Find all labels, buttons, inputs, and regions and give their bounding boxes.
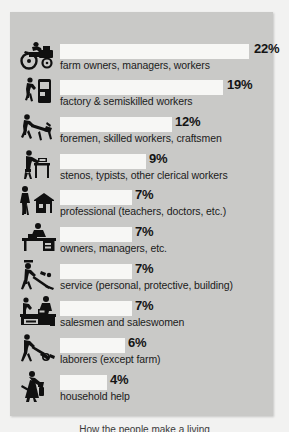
bar-category-label: household help (60, 390, 130, 402)
bar-fill (60, 301, 132, 316)
bar-value-label: 19% (227, 77, 252, 92)
bar-fill (60, 190, 132, 205)
salesman-counter-icon (16, 295, 60, 329)
bar-fill (60, 375, 107, 390)
bar-category-label: stenos, typists, other clerical workers (60, 169, 228, 181)
bar-value-label: 7% (135, 224, 153, 239)
bar-value-label: 22% (254, 41, 279, 56)
bar-fill (60, 154, 146, 169)
bar-value-label: 6% (128, 335, 146, 350)
craftsman-icon (16, 111, 60, 145)
bar-fill (60, 80, 223, 95)
bar-value-label: 12% (175, 114, 200, 129)
bar-value-label: 7% (135, 261, 153, 276)
bar-category-label: professional (teachers, doctors, etc.) (60, 205, 226, 217)
bar-value-label: 7% (135, 298, 153, 313)
bar-category-label: salesmen and saleswomen (60, 316, 184, 328)
bar-fill (60, 227, 132, 242)
figure-caption: How the people make a living (0, 424, 289, 432)
bar-category-label: owners, managers, etc. (60, 242, 167, 254)
household-help-icon (16, 369, 60, 403)
typist-icon (16, 148, 60, 182)
bar-category-label: foremen, skilled workers, craftsmen (60, 132, 222, 144)
bar-value-label: 4% (110, 372, 128, 387)
bar-category-label: laborers (except farm) (60, 353, 161, 365)
bar-category-label: farm owners, managers, workers (60, 59, 210, 71)
service-worker-icon (16, 258, 60, 292)
bar-fill (60, 117, 172, 132)
bar-fill (60, 338, 125, 353)
bar-category-label: service (personal, protective, building) (60, 279, 233, 291)
bar-value-label: 7% (135, 187, 153, 202)
tractor-farmer-icon (16, 38, 60, 72)
professional-icon (16, 184, 60, 218)
bar-category-label: factory & semiskilled workers (60, 95, 192, 107)
owner-manager-desk-icon (16, 221, 60, 255)
bar-fill (60, 44, 249, 59)
bar-fill (60, 264, 132, 279)
laborer-icon (16, 332, 60, 366)
factory-worker-icon (16, 74, 60, 108)
occupation-bar-chart-panel: 22% farm owners, managers, workers 19% f… (10, 12, 273, 416)
bar-value-label: 9% (149, 151, 167, 166)
